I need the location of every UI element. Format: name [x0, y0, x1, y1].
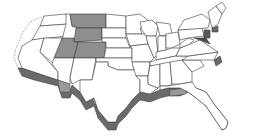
state-nebraska[interactable]: [102, 38, 130, 48]
state-new-york[interactable]: [178, 14, 210, 30]
state-colorado[interactable]: [74, 42, 106, 58]
state-wisconsin[interactable]: [140, 20, 158, 36]
us-map-svg: [0, 0, 270, 140]
state-new-jersey[interactable]: [204, 30, 210, 38]
state-kansas[interactable]: [104, 48, 132, 58]
state-ohio[interactable]: [166, 32, 180, 48]
state-north-dakota[interactable]: [106, 14, 126, 28]
us-map: United States: [0, 0, 270, 140]
state-south-dakota[interactable]: [102, 28, 126, 38]
state-mississippi[interactable]: [148, 64, 160, 88]
state-montana[interactable]: [70, 14, 106, 28]
state-indiana[interactable]: [158, 36, 166, 52]
state-wyoming[interactable]: [74, 28, 102, 42]
